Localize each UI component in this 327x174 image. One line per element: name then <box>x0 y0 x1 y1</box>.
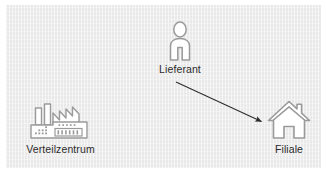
diagram-canvas: Verteilzentrum Lieferant <box>0 0 327 174</box>
house-icon <box>267 99 311 141</box>
node-label-filiale: Filiale <box>275 143 303 156</box>
node-label-verteilzentrum: Verteilzentrum <box>26 143 95 156</box>
node-lieferant[interactable]: Lieferant <box>143 21 217 76</box>
node-label-lieferant: Lieferant <box>159 63 201 76</box>
node-verteilzentrum[interactable]: Verteilzentrum <box>8 99 113 156</box>
factory-icon <box>29 99 93 141</box>
person-icon <box>162 21 198 61</box>
node-filiale[interactable]: Filiale <box>253 99 325 156</box>
